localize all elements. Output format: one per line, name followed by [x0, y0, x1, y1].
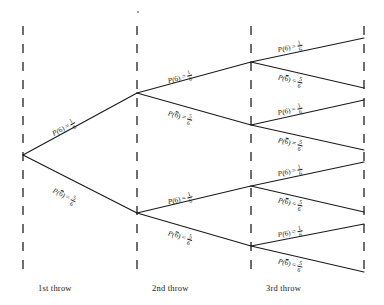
branch-b-4: [137, 93, 251, 125]
stage-caption-stage-2: 2nd throw: [152, 283, 189, 293]
tree-branch-lines: [23, 38, 364, 272]
branch-b-3: [137, 62, 251, 93]
branch-b-6: [137, 213, 251, 246]
branch-b-7: [251, 38, 364, 62]
branch-b-11: [251, 162, 364, 186]
stage-caption-stage-3: 3rd throw: [266, 283, 301, 293]
tree-canvas: [0, 0, 384, 305]
branch-b-13: [251, 224, 364, 246]
branch-b-14: [251, 246, 364, 272]
branch-b-2: [23, 155, 137, 213]
fraction-denominator: 6: [297, 230, 303, 238]
branch-b-12: [251, 186, 364, 212]
branch-b-5: [137, 186, 251, 213]
probability-tree-diagram: P(6)=16P(6)=56P(6)=16P(6)=56P(6)=16P(6)=…: [0, 0, 384, 305]
branch-b-8: [251, 62, 364, 88]
scan-artifact-speck: [137, 11, 139, 13]
stage-caption-stage-1: 1st throw: [38, 283, 72, 293]
branch-b-10: [251, 125, 364, 150]
branch-b-9: [251, 100, 364, 125]
branch-b-1: [23, 93, 137, 155]
